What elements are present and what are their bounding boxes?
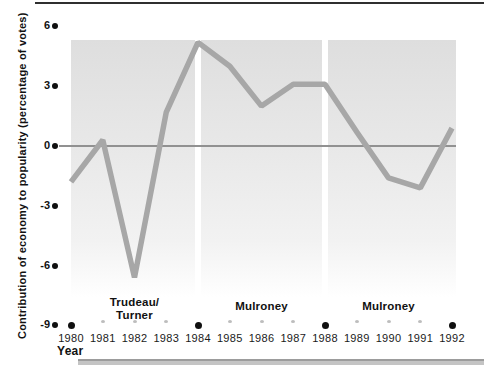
y-tick-label: 3 xyxy=(0,79,50,91)
y-tick-label: 0 xyxy=(0,139,50,151)
y-tick-dot xyxy=(52,322,58,328)
y-tick-dot xyxy=(52,203,58,209)
y-tick-label: 6 xyxy=(0,19,50,31)
year-tick xyxy=(228,320,232,323)
election-year-dot xyxy=(322,322,329,329)
year-tick xyxy=(387,320,391,323)
year-label: 1992 xyxy=(431,332,473,344)
election-year-dot xyxy=(68,322,75,329)
era-panel xyxy=(328,40,456,297)
election-year-dot xyxy=(449,322,456,329)
era-label: Trudeau/Turner xyxy=(75,296,195,321)
election-year-dot xyxy=(195,322,202,329)
era-label: Mulroney xyxy=(202,300,322,313)
y-tick-dot xyxy=(52,23,58,29)
era-panel xyxy=(201,40,322,297)
year-tick xyxy=(260,320,264,323)
y-tick-dot xyxy=(52,263,58,269)
y-tick-dot xyxy=(52,83,58,89)
zero-baseline xyxy=(59,145,456,147)
year-tick xyxy=(291,320,295,323)
x-axis-title: Year xyxy=(57,344,84,358)
top-rule xyxy=(35,2,484,4)
y-tick-label: -9 xyxy=(0,318,50,330)
era-panel xyxy=(71,40,195,297)
year-tick xyxy=(418,320,422,323)
economy-popularity-chart: Contribution of economy to popularity (p… xyxy=(0,0,484,370)
y-tick-dot xyxy=(52,143,58,149)
bottom-double-rule xyxy=(78,359,484,365)
year-tick xyxy=(355,320,359,323)
y-tick-label: -6 xyxy=(0,259,50,271)
era-label: Mulroney xyxy=(329,300,449,313)
y-tick-label: -3 xyxy=(0,199,50,211)
